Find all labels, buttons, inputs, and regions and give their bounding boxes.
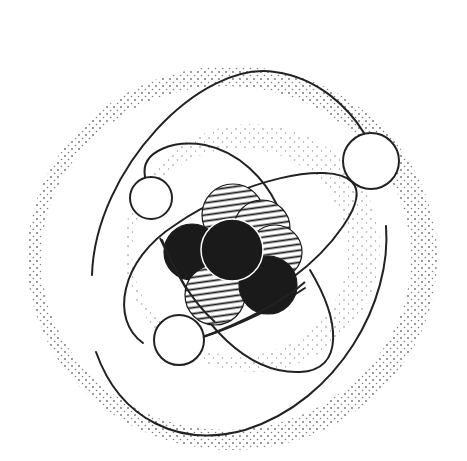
electron-outer	[343, 133, 399, 189]
atom-diagram	[0, 0, 467, 461]
atom-illustration	[0, 0, 467, 461]
proton	[201, 219, 263, 281]
electron-lower-left	[154, 315, 204, 365]
electron-upper-left	[130, 177, 172, 219]
